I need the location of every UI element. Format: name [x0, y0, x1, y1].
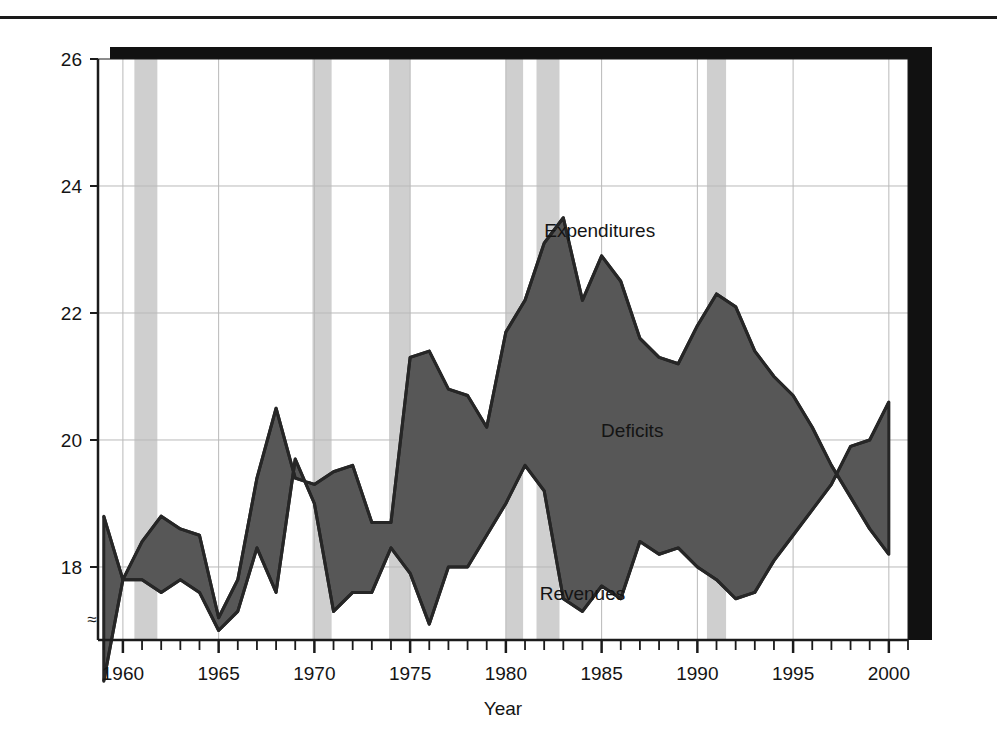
x-tick-label-1980: 1980: [485, 663, 527, 684]
x-tick-label-1960: 1960: [102, 663, 144, 684]
x-tick-label-1970: 1970: [293, 663, 335, 684]
y-tick-label-26: 26: [61, 49, 82, 70]
revenues-label: Revenues: [540, 583, 626, 604]
chart-figure: 1820222426≈19601965197019751980198519901…: [0, 0, 997, 753]
y-axis-break-icon: ≈: [87, 610, 96, 629]
x-tick-label-1990: 1990: [676, 663, 718, 684]
y-tick-label-18: 18: [61, 557, 82, 578]
x-axis-title: Year: [484, 698, 523, 719]
x-tick-label-1995: 1995: [772, 663, 814, 684]
y-tick-label-20: 20: [61, 430, 82, 451]
expenditures-label: Expenditures: [544, 220, 655, 241]
figure-canvas: 1820222426≈19601965197019751980198519901…: [0, 0, 997, 753]
deficits-label: Deficits: [601, 420, 663, 441]
x-tick-label-2000: 2000: [868, 663, 910, 684]
x-tick-label-1975: 1975: [389, 663, 431, 684]
x-tick-label-1965: 1965: [197, 663, 239, 684]
y-tick-label-24: 24: [61, 176, 83, 197]
x-tick-label-1985: 1985: [580, 663, 622, 684]
area-chart: 1820222426≈19601965197019751980198519901…: [0, 0, 997, 753]
y-tick-label-22: 22: [61, 303, 82, 324]
